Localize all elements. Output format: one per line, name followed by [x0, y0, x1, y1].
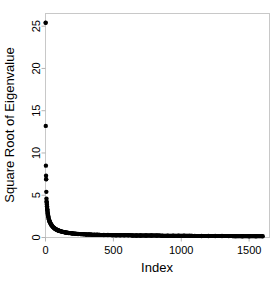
data-point: [45, 207, 49, 211]
y-tick-label: 25: [30, 20, 42, 32]
scree-plot-figure: 0510152025 050010001500 Index Square Roo…: [0, 0, 280, 282]
y-tick-label: 10: [30, 147, 42, 159]
y-tick-label: 20: [30, 62, 42, 74]
y-tick-label: 0: [30, 234, 42, 240]
scree-plot-canvas: 0510152025 050010001500 Index Square Roo…: [0, 0, 280, 282]
data-point: [44, 190, 48, 194]
y-tick-label: 5: [30, 192, 42, 198]
data-point: [45, 201, 49, 205]
x-tick-label: 1000: [169, 244, 193, 256]
x-tick-label: 1500: [237, 244, 261, 256]
y-axis-title: Square Root of Eigenvalue: [2, 47, 17, 202]
data-point: [44, 21, 48, 25]
x-tick-label: 500: [104, 244, 122, 256]
data-point: [260, 234, 264, 238]
x-tick-label: 0: [42, 244, 48, 256]
data-point: [44, 124, 48, 128]
data-point: [44, 163, 48, 167]
y-tick-label: 15: [30, 105, 42, 117]
data-point: [44, 177, 48, 181]
x-axis-title: Index: [141, 260, 173, 275]
